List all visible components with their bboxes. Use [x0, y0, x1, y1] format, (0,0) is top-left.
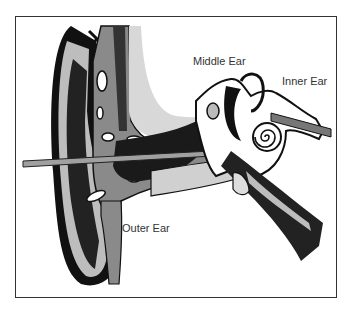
cochlea: [253, 123, 281, 151]
ear-illustration: [16, 17, 337, 298]
label-inner-ear: Inner Ear: [282, 75, 327, 87]
diagram-frame: Middle Ear Inner Ear Outer Ear: [15, 16, 337, 298]
label-outer-ear: Outer Ear: [122, 222, 170, 234]
label-middle-ear: Middle Ear: [193, 55, 246, 67]
